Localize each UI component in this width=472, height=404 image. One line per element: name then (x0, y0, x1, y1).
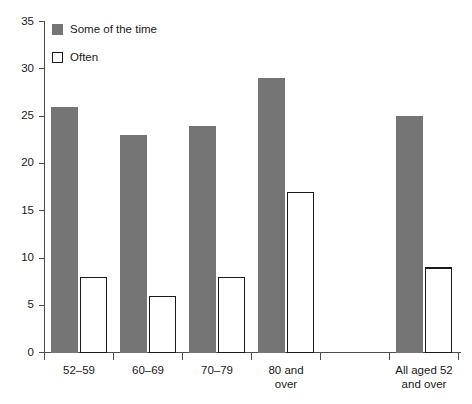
category-label: 52–59 (63, 364, 95, 376)
bar (51, 107, 78, 353)
chart-canvas: 35 30 25 20 15 10 5 0 52–5960–6970–7980 … (0, 0, 472, 404)
y-tick-label: 5 (28, 298, 34, 310)
y-tick-label: 25 (21, 109, 34, 121)
category-label: 60–69 (132, 364, 164, 376)
y-tick-label: 15 (21, 204, 34, 216)
legend-swatch-often-icon (53, 53, 63, 63)
bar (396, 116, 423, 352)
chart-legend: Some of the time Often (52, 23, 157, 63)
y-tick-labels: 35 30 25 20 15 10 5 0 (21, 15, 34, 358)
category-labels: 52–5960–6970–7980 andoverAll aged 52and … (63, 364, 453, 390)
y-tick-label: 10 (21, 251, 34, 263)
legend-label-some-of-the-time: Some of the time (70, 23, 157, 35)
x-tick-marks (45, 353, 459, 361)
bar (189, 126, 216, 353)
bar (258, 78, 285, 352)
bar (219, 277, 245, 352)
y-tick-label: 35 (21, 15, 34, 27)
y-tick-label: 30 (21, 62, 34, 74)
category-label: 70–79 (201, 364, 233, 376)
bar (81, 277, 107, 352)
y-tick-label: 0 (28, 346, 34, 358)
bar (288, 192, 314, 352)
y-tick-label: 20 (21, 156, 34, 168)
bar (150, 296, 176, 352)
legend-swatch-some-of-the-time-icon (52, 24, 63, 35)
y-tick-marks (39, 22, 45, 353)
category-label: All aged 52and over (395, 364, 453, 390)
legend-label-often: Often (70, 51, 98, 63)
bar (120, 135, 147, 353)
bar (426, 268, 452, 353)
bars-layer (51, 78, 452, 352)
bar-chart: 35 30 25 20 15 10 5 0 52–5960–6970–7980 … (0, 0, 472, 404)
category-label: 80 andover (268, 364, 303, 390)
